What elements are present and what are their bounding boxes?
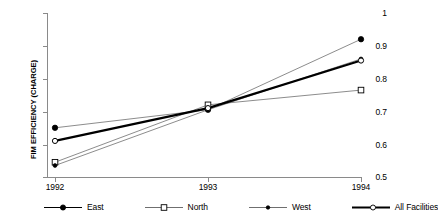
x-tick-label-1994: 1994 (331, 182, 391, 192)
data-point-north-1992 (52, 159, 58, 165)
legend-label-all-facilities: All Facilities (395, 202, 438, 212)
y-tick-label-0.7: 0.7 (349, 108, 387, 117)
y-axis-title-wrapper: FIM EFFICIENCY (CHARGE) (10, 45, 24, 170)
y-tick-1 (43, 13, 48, 14)
y-tick-label-1: 1 (349, 9, 387, 18)
series-line-west (55, 59, 361, 166)
y-tick-0.9 (43, 46, 48, 47)
legend-label-west: West (292, 202, 311, 212)
legend-item-east[interactable]: East (44, 202, 104, 213)
legend-marker-east (44, 202, 82, 213)
legend-marker-north (145, 202, 183, 213)
chart-legend: East North West (0, 196, 387, 218)
data-point-west-1993 (206, 108, 210, 112)
y-tick-0.7 (43, 112, 48, 113)
data-point-west-1992 (53, 164, 57, 168)
data-point-west-1994 (359, 57, 363, 61)
y-tick-0.6 (43, 145, 48, 146)
y-axis-title: FIM EFFICIENCY (CHARGE) (29, 40, 38, 180)
legend-marker-all-facilities (352, 202, 390, 213)
y-tick-label-0.9: 0.9 (349, 42, 387, 51)
data-point-all-facilities-1993 (205, 106, 210, 111)
data-point-east-1993 (205, 107, 210, 112)
legend-item-north[interactable]: North (145, 202, 208, 213)
data-point-north-1994 (358, 87, 364, 93)
series-line-north (55, 90, 361, 162)
y-tick-0.8 (43, 79, 48, 80)
legend-item-all-facilities[interactable]: All Facilities (352, 202, 438, 213)
data-point-north-1993 (205, 102, 211, 108)
y-axis-line (47, 13, 48, 178)
x-tick-label-1992: 1992 (25, 182, 85, 192)
data-point-all-facilities-1992 (52, 138, 57, 143)
legend-label-east: East (87, 202, 104, 212)
y-tick-label-0.8: 0.8 (349, 75, 387, 84)
series-line-east (55, 39, 361, 128)
x-axis-line (47, 177, 362, 178)
legend-marker-west (249, 202, 287, 213)
data-point-all-facilities-1994 (358, 58, 363, 63)
y-tick-label-0.5: 0.5 (349, 173, 387, 182)
data-point-east-1992 (52, 125, 57, 130)
legend-item-west[interactable]: West (249, 202, 311, 213)
legend-label-north: North (188, 202, 208, 212)
y-tick-0.5 (43, 177, 48, 178)
x-tick-label-1993: 1993 (178, 182, 238, 192)
y-tick-label-0.6: 0.6 (349, 141, 387, 150)
series-line-all-facilities (55, 61, 361, 141)
